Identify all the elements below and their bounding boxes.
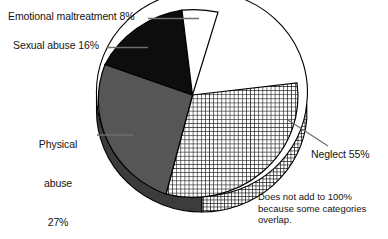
- slice-label-sexual-abuse: Sexual abuse 16%: [13, 39, 99, 52]
- slice-label-physical-abuse: Physical abuse 27%: [22, 112, 94, 239]
- slice-label-physical-abuse-line1: Physical: [22, 138, 94, 151]
- leader-line-neglect: [288, 120, 328, 146]
- slice-label-physical-abuse-line3: 27%: [22, 216, 94, 229]
- chart-footnote: Does not add to 100% because some catego…: [258, 191, 386, 226]
- chart-footnote-line3: overlap.: [258, 214, 386, 226]
- slice-label-emotional-maltreatment: Emotional maltreatment 8%: [8, 10, 134, 23]
- slice-label-neglect: Neglect 55%: [311, 148, 369, 161]
- slice-label-physical-abuse-line2: abuse: [22, 177, 94, 190]
- chart-footnote-line2: because some categories: [258, 203, 386, 215]
- chart-footnote-line1: Does not add to 100%: [258, 191, 386, 203]
